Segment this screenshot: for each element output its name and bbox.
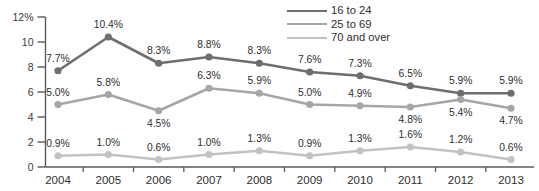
data-point-label: 8.3% [235,46,283,56]
data-point-label: 4.8% [386,115,434,125]
data-point-marker [507,156,514,163]
data-point-marker [54,101,61,108]
data-point-marker [105,151,112,158]
data-point-marker [205,151,212,158]
legend-swatch-icon [287,23,327,25]
legend-item-2[interactable]: 25 to 69 [287,19,371,30]
data-point-marker [155,107,162,114]
data-point-label: 1.3% [235,134,283,144]
legend-swatch-icon [287,37,327,39]
legend-item-3[interactable]: 70 and over [287,32,390,43]
data-point-marker [507,90,514,97]
y-axis-tick-label: 0 [0,162,34,173]
data-point-marker [205,53,212,60]
y-axis-tick-label: 10 [0,37,34,48]
data-point-marker [356,147,363,154]
y-axis-tick-label: 4 [0,112,34,123]
data-point-marker [356,72,363,79]
data-point-marker [105,91,112,98]
legend-label: 25 to 69 [331,19,371,30]
data-point-label: 5.9% [437,76,485,86]
data-point-label: 5.0% [286,88,334,98]
data-point-label: 0.6% [487,143,535,153]
series-line-3 [58,147,511,160]
data-point-marker [54,152,61,159]
data-point-label: 10.4% [84,20,132,30]
data-point-label: 1.0% [84,138,132,148]
data-point-label: 5.4% [437,108,485,118]
data-point-marker [256,90,263,97]
data-point-marker [256,60,263,67]
line-chart: 7.7%10.4%8.3%8.8%8.3%7.6%7.3%6.5%5.9%5.9… [0,0,539,191]
data-point-label: 0.9% [34,139,82,149]
y-axis-tick-label: 2 [0,137,34,148]
data-point-marker [54,67,61,74]
data-point-marker [356,102,363,109]
legend-label: 16 to 24 [331,5,371,16]
y-axis-tick-label: 8 [0,62,34,73]
y-axis-tick-label: 12% [0,12,34,23]
data-point-label: 4.9% [336,89,384,99]
data-point-label: 5.9% [235,76,283,86]
legend-label: 70 and over [331,32,390,43]
data-point-label: 4.5% [135,119,183,129]
data-point-marker [205,85,212,92]
data-point-label: 7.7% [34,54,82,64]
data-point-marker [155,60,162,67]
data-point-label: 7.3% [336,59,384,69]
y-axis-tick-label: 6 [0,87,34,98]
data-point-marker [407,82,414,89]
data-point-marker [155,156,162,163]
data-point-label: 8.8% [185,40,233,50]
data-point-marker [407,143,414,150]
data-point-marker [457,90,464,97]
data-point-label: 4.7% [487,116,535,126]
data-point-label: 1.6% [386,130,434,140]
x-axis-tick-label: 2013 [481,175,539,187]
data-point-label: 7.6% [286,55,334,65]
data-point-marker [306,101,313,108]
data-point-label: 1.3% [336,134,384,144]
data-point-label: 6.5% [386,69,434,79]
data-point-marker [457,96,464,103]
data-point-label: 8.3% [135,46,183,56]
data-point-label: 6.3% [185,71,233,81]
data-point-marker [105,33,112,40]
data-point-label: 5.0% [34,88,82,98]
data-point-label: 5.8% [84,78,132,88]
data-point-marker [306,68,313,75]
data-point-label: 0.9% [286,139,334,149]
legend-swatch-icon [287,10,327,12]
data-point-label: 5.9% [487,76,535,86]
data-point-marker [256,147,263,154]
data-point-label: 1.0% [185,138,233,148]
legend-item-1[interactable]: 16 to 24 [287,5,371,16]
data-point-label: 0.6% [135,143,183,153]
data-point-marker [507,105,514,112]
data-point-label: 1.2% [437,135,485,145]
data-point-marker [407,103,414,110]
data-point-marker [306,152,313,159]
data-point-marker [457,148,464,155]
